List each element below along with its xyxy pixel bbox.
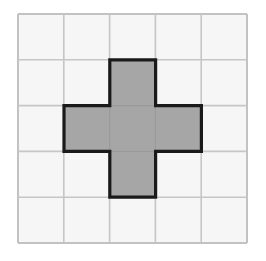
shaded-cell [155, 106, 201, 152]
grid-cell [64, 60, 110, 106]
grid-cell [64, 151, 110, 197]
grid-cell [18, 197, 64, 243]
grid-cell [201, 106, 247, 152]
grid-cell [64, 197, 110, 243]
shaded-cell [110, 106, 156, 152]
grid-cell [64, 14, 110, 60]
grid-cell [201, 60, 247, 106]
grid-cell [201, 151, 247, 197]
grid-cell [155, 151, 201, 197]
grid-cell [155, 14, 201, 60]
grid-cell [18, 60, 64, 106]
grid-cell [201, 197, 247, 243]
shaded-cell [110, 60, 156, 106]
shaded-cell [110, 151, 156, 197]
grid-cell [110, 197, 156, 243]
grid-cell [18, 106, 64, 152]
grid-cell [18, 151, 64, 197]
grid-cell [155, 60, 201, 106]
grid-cell [155, 197, 201, 243]
grid-cell [201, 14, 247, 60]
shaded-cell [64, 106, 110, 152]
figure-root: Plus pentomino shaded on a 5 by 5 square… [0, 0, 266, 261]
grid-diagram: Plus pentomino shaded on a 5 by 5 square… [0, 0, 266, 261]
grid-cell [110, 14, 156, 60]
grid-cell [18, 14, 64, 60]
